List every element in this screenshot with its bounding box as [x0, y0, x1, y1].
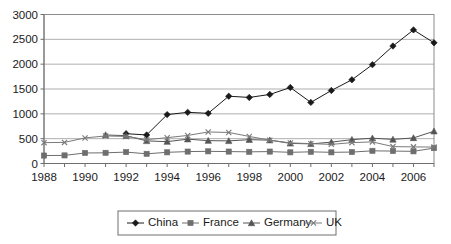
y-axis-label-2500: 2500: [12, 33, 38, 45]
x-axis-label-2002: 2002: [319, 171, 345, 183]
legend-label-germany: Germany: [264, 216, 312, 228]
datapoint-france-1994: [165, 150, 170, 155]
chart-canvas: 050010001500200025003000 198819901992199…: [0, 0, 451, 244]
chart-background: [0, 0, 451, 244]
x-axis-label-1990: 1990: [72, 171, 98, 183]
legend-marker-france: [188, 220, 193, 225]
datapoint-france-1988: [41, 153, 46, 158]
datapoint-france-2000: [288, 150, 293, 155]
y-axis-label-1000: 1000: [12, 108, 38, 120]
datapoint-france-1990: [82, 150, 87, 155]
y-axis-label-3000: 3000: [12, 9, 38, 21]
datapoint-france-1997: [226, 149, 231, 154]
datapoint-france-2003: [349, 149, 354, 154]
datapoint-france-1995: [185, 149, 190, 154]
datapoint-france-2005: [390, 148, 395, 153]
datapoint-france-1996: [206, 149, 211, 154]
datapoint-france-1989: [62, 153, 67, 158]
x-axis-label-1998: 1998: [236, 171, 262, 183]
legend-label-china: China: [148, 216, 179, 228]
x-axis-label-1996: 1996: [195, 171, 221, 183]
x-axis-label-1992: 1992: [113, 171, 139, 183]
y-axis-label-500: 500: [19, 133, 38, 145]
datapoint-france-2002: [329, 150, 334, 155]
datapoint-france-2001: [308, 149, 313, 154]
datapoint-france-1993: [144, 151, 149, 156]
datapoint-france-1998: [247, 149, 252, 154]
datapoint-france-1991: [103, 150, 108, 155]
x-axis-label-1994: 1994: [154, 171, 180, 183]
datapoint-france-2006: [411, 149, 416, 154]
datapoint-france-2004: [370, 148, 375, 153]
legend-label-france: France: [203, 216, 239, 228]
y-axis-label-1500: 1500: [12, 83, 38, 95]
x-axis-label-2000: 2000: [278, 171, 304, 183]
chart-legend: ChinaFranceGermanyUK: [118, 211, 342, 235]
legend-label-uk: UK: [326, 216, 342, 228]
datapoint-france-1992: [124, 149, 129, 154]
x-axis-label-1988: 1988: [31, 171, 57, 183]
line-chart: 050010001500200025003000 198819901992199…: [0, 0, 451, 244]
y-axis-label-0: 0: [32, 158, 38, 170]
datapoint-france-1999: [267, 149, 272, 154]
y-axis-label-2000: 2000: [12, 58, 38, 70]
datapoint-france-2007: [431, 146, 436, 151]
x-axis-label-2006: 2006: [401, 171, 427, 183]
x-axis-label-2004: 2004: [360, 171, 386, 183]
